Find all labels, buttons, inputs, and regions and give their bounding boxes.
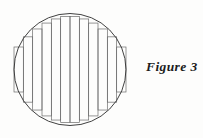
figure-container: Figure 3	[0, 0, 203, 138]
inscribed-rectangle	[117, 47, 126, 92]
figure-caption: Figure 3	[146, 60, 198, 74]
inscribed-rectangle	[23, 37, 32, 102]
inscribed-rectangle	[42, 23, 51, 116]
inscribed-rectangle	[89, 23, 98, 116]
inscribed-rectangle	[33, 29, 42, 110]
inscribed-rectangles-group	[14, 17, 126, 123]
inscribed-rectangle	[98, 29, 107, 110]
inscribed-rectangle	[61, 17, 70, 123]
inscribed-rectangle	[79, 19, 88, 120]
inscribed-rectangle	[51, 19, 60, 120]
inscribed-rectangle	[107, 37, 116, 102]
inscribed-rectangle	[70, 17, 79, 123]
inscribed-rectangle	[14, 47, 23, 92]
